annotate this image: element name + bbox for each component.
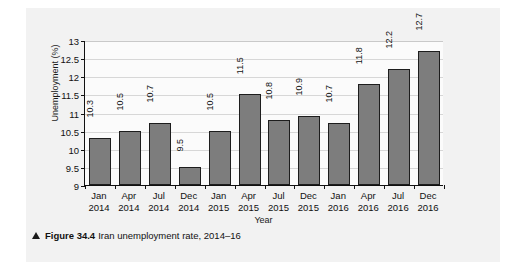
bar[interactable] <box>298 116 320 185</box>
x-tick-label: Jan2015 <box>202 190 236 213</box>
y-tick-label: 10.5 <box>61 126 80 137</box>
x-tick-label-year: 2014 <box>112 202 146 214</box>
x-tick-label-year: 2015 <box>232 202 266 214</box>
y-tick-label: 11.5 <box>61 90 79 101</box>
bar-slot: 12.2 <box>384 41 414 185</box>
x-tick-mark <box>235 185 236 189</box>
bar-slot: 11.8 <box>354 41 384 185</box>
x-tick-label-month: Apr <box>112 190 146 202</box>
x-tick-label: Apr2016 <box>351 190 385 213</box>
x-tick-label-month: Jul <box>261 190 295 202</box>
x-tick-label-month: Jan <box>202 190 236 202</box>
bar[interactable] <box>149 123 171 185</box>
bar-slot: 9.5 <box>175 41 205 185</box>
x-tick-mark <box>354 185 355 189</box>
bar[interactable] <box>89 138 111 185</box>
figure-caption: Figure 34.4Iran unemployment rate, 2014–… <box>32 230 492 241</box>
x-tick-label: Jan2016 <box>321 190 355 213</box>
x-tick-label-month: Dec <box>411 190 445 202</box>
bar-chart: Unemployment (%) 99.51010.51111.51212.51… <box>26 8 500 223</box>
bar-value-label: 9.5 <box>175 139 185 152</box>
bar[interactable] <box>388 69 410 185</box>
y-tick-label: 9 <box>74 181 79 192</box>
bar[interactable] <box>179 167 201 185</box>
bar-slot: 10.3 <box>85 41 115 185</box>
bar-value-label: 10.8 <box>264 82 274 100</box>
x-tick-mark <box>324 185 325 189</box>
y-tick-label: 12 <box>68 72 79 83</box>
bar-value-label: 11.5 <box>235 58 245 75</box>
x-tick-label-year: 2016 <box>411 202 445 214</box>
bar-value-label: 12.2 <box>384 31 394 49</box>
x-tick-mark <box>145 185 146 189</box>
x-tick-label-month: Apr <box>351 190 385 202</box>
x-tick-label-year: 2016 <box>381 202 415 214</box>
bar-value-label: 10.5 <box>115 93 125 111</box>
bar-value-label: 10.7 <box>324 85 334 103</box>
bar[interactable] <box>239 94 261 185</box>
y-tick-label: 11 <box>69 108 79 119</box>
caption-description: Iran unemployment rate, 2014–16 <box>98 230 241 241</box>
x-tick-mark <box>265 185 266 189</box>
bar-slot: 11.5 <box>235 41 265 185</box>
figure-panel: Unemployment (%) 99.51010.51111.51212.51… <box>26 8 500 262</box>
x-tick-label-month: Dec <box>291 190 325 202</box>
x-tick-mark <box>414 185 415 189</box>
x-tick-label: Jul2015 <box>261 190 295 213</box>
triangle-up-icon <box>32 232 40 239</box>
x-tick-label-year: 2016 <box>321 202 355 214</box>
x-tick-mark <box>85 185 86 189</box>
y-tick-label: 13 <box>68 36 79 47</box>
x-tick-label-year: 2015 <box>291 202 325 214</box>
bar-value-label: 11.8 <box>354 47 364 64</box>
bar-slot: 10.7 <box>324 41 354 185</box>
y-tick-label: 9.5 <box>66 162 79 173</box>
x-tick-label-year: 2014 <box>172 202 206 214</box>
bar[interactable] <box>418 51 440 185</box>
caption-figure-number: Figure 34.4 <box>45 230 95 241</box>
x-tick-label: Dec2016 <box>411 190 445 213</box>
x-tick-label-year: 2014 <box>142 202 176 214</box>
bar[interactable] <box>209 131 231 185</box>
x-tick-label: Apr2014 <box>112 190 146 213</box>
x-tick-label-month: Jul <box>381 190 415 202</box>
bar-slot: 10.8 <box>265 41 295 185</box>
bar-slot: 12.7 <box>414 41 444 185</box>
bar[interactable] <box>268 120 290 185</box>
y-tick-label: 10 <box>68 144 79 155</box>
x-tick-label-year: 2015 <box>202 202 236 214</box>
bar-slot: 10.7 <box>145 41 175 185</box>
x-tick-label-month: Apr <box>232 190 266 202</box>
bars-layer: 10.310.510.79.510.511.510.810.910.711.81… <box>85 41 443 185</box>
plot-area: 99.51010.51111.51212.513 10.310.510.79.5… <box>84 41 443 186</box>
x-tick-label: Dec2015 <box>291 190 325 213</box>
x-tick-mark <box>384 185 385 189</box>
x-tick-label: Apr2015 <box>232 190 266 213</box>
bar[interactable] <box>358 84 380 186</box>
x-tick-label-year: 2015 <box>261 202 295 214</box>
x-axis-title: Year <box>84 215 443 225</box>
x-tick-label-month: Dec <box>172 190 206 202</box>
bar-slot: 10.5 <box>205 41 235 185</box>
x-tick-label: Jul2014 <box>142 190 176 213</box>
x-tick-label-month: Jul <box>142 190 176 202</box>
bar-value-label: 10.9 <box>294 78 304 96</box>
x-tick-label: Jan2014 <box>82 190 116 213</box>
y-axis-title: Unemployment (%) <box>50 28 60 138</box>
bar[interactable] <box>328 123 350 185</box>
y-tick-label: 12.5 <box>61 54 80 65</box>
x-tick-mark <box>175 185 176 189</box>
bar-value-label: 10.7 <box>145 85 155 103</box>
x-tick-label: Jul2016 <box>381 190 415 213</box>
x-tick-label: Dec2014 <box>172 190 206 213</box>
x-tick-mark <box>205 185 206 189</box>
bar-value-label: 12.7 <box>414 13 424 31</box>
x-axis-tick-labels: Jan2014Apr2014Jul2014Dec2014Jan2015Apr20… <box>84 190 443 218</box>
x-tick-label-month: Jan <box>321 190 355 202</box>
bar[interactable] <box>119 131 141 185</box>
x-tick-label-year: 2014 <box>82 202 116 214</box>
x-tick-mark <box>115 185 116 189</box>
bar-slot: 10.5 <box>115 41 145 185</box>
x-tick-label-year: 2016 <box>351 202 385 214</box>
bar-value-label: 10.5 <box>205 93 215 111</box>
